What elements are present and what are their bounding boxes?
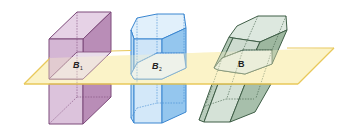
cross-section-diagram: B 1 B 2 B	[0, 0, 349, 133]
label-b1-letter: B	[73, 60, 80, 70]
label-b1-sub: 1	[80, 65, 83, 71]
label-b2-letter: B	[152, 61, 159, 71]
label-b-letter: B	[238, 59, 245, 69]
section-label-b: B	[238, 59, 245, 69]
diagram-canvas: B 1 B 2 B	[0, 0, 349, 133]
label-b2-sub: 2	[159, 66, 162, 72]
